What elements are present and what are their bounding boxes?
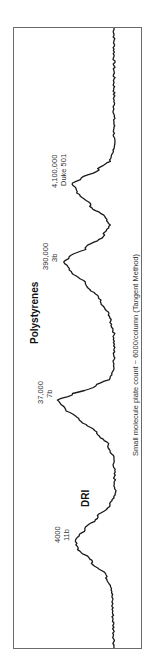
peak-label-duke-501: 4,100,000 Duke 501 bbox=[50, 154, 68, 188]
dri-trace bbox=[57, 28, 116, 648]
peak-label-3b: 390,000 3b bbox=[41, 243, 59, 270]
peak-label-7b: 37,000 7b bbox=[36, 381, 54, 404]
caption: Small molecule plate count ~ 6000/column… bbox=[131, 254, 140, 456]
peak2-name: 3b bbox=[50, 254, 59, 262]
peak3-name: 7b bbox=[45, 390, 54, 398]
detector-label: DRI bbox=[80, 490, 91, 507]
caption-text: Small molecule plate count ~ 6000/column… bbox=[131, 254, 140, 456]
peak2-mw: 390,000 bbox=[41, 243, 50, 270]
detector-label-text: DRI bbox=[80, 490, 91, 507]
chromatogram-chart: 4,100,000 Duke 501 390,000 3b 37,000 7b … bbox=[0, 0, 157, 661]
peak1-name: Duke 501 bbox=[59, 154, 68, 186]
peak-label-11b: 4000 11b bbox=[53, 526, 71, 543]
peak4-name: 11b bbox=[62, 529, 71, 541]
chart-title-text: Polystyrenes bbox=[29, 281, 40, 344]
peak4-mw: 4000 bbox=[53, 526, 62, 543]
peak3-mw: 37,000 bbox=[36, 381, 45, 404]
chart-title: Polystyrenes bbox=[29, 281, 40, 344]
peak1-mw: 4,100,000 bbox=[50, 155, 59, 188]
